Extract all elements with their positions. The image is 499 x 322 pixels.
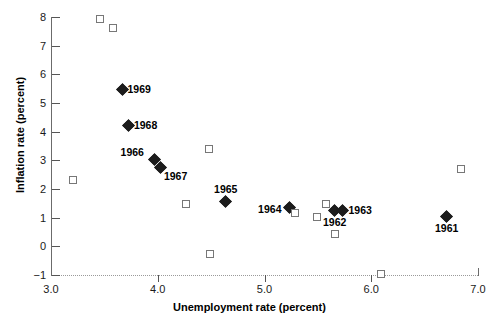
diamond-marker-icon xyxy=(440,210,453,223)
data-point-label: 1969 xyxy=(128,84,151,95)
square-marker-icon xyxy=(69,176,77,184)
x-tick-label: 4.0 xyxy=(133,284,183,295)
y-tick-mark xyxy=(52,246,60,247)
x-axis-title: Unemployment rate (percent) xyxy=(0,301,499,313)
data-point-label: 1964 xyxy=(258,204,281,215)
y-tick-mark xyxy=(52,218,60,219)
square-marker-icon xyxy=(182,200,190,208)
square-marker-icon xyxy=(291,209,299,217)
y-tick-label: 8 xyxy=(0,12,46,23)
diamond-marker-icon xyxy=(116,83,129,96)
x-tick-mark xyxy=(265,275,266,282)
data-point-label: 1967 xyxy=(164,171,187,182)
square-marker-icon xyxy=(109,24,117,32)
data-point-label: 1962 xyxy=(323,217,346,228)
x-tick-label: 5.0 xyxy=(240,284,290,295)
diamond-marker-icon xyxy=(337,204,350,217)
x-tick-label: 7.0 xyxy=(453,284,499,295)
y-tick-label: −1 xyxy=(0,270,46,281)
data-point-label: 1961 xyxy=(435,223,458,234)
data-point-label: 1968 xyxy=(134,120,157,131)
x-tick-label: 6.0 xyxy=(346,284,396,295)
square-marker-icon xyxy=(206,250,214,258)
y-tick-mark xyxy=(52,17,60,18)
y-axis-line xyxy=(51,17,52,275)
y-tick-mark xyxy=(52,132,60,133)
data-point-label: 1965 xyxy=(214,184,237,195)
diamond-marker-icon xyxy=(122,119,135,132)
square-marker-icon xyxy=(322,200,330,208)
data-point-label: 1963 xyxy=(348,205,371,216)
scatter-chart: 876543210−1 3.04.05.06.07.0 Inflation ra… xyxy=(0,0,499,322)
square-marker-icon xyxy=(96,15,104,23)
square-marker-icon xyxy=(377,270,385,278)
square-marker-icon xyxy=(205,145,213,153)
square-marker-icon xyxy=(331,230,339,238)
diamond-marker-icon xyxy=(219,195,232,208)
y-tick-mark xyxy=(52,275,60,276)
x-tick-label: 3.0 xyxy=(26,284,76,295)
x-tick-mark xyxy=(371,275,372,282)
square-marker-icon xyxy=(457,165,465,173)
x-axis-right-cap xyxy=(478,268,479,276)
y-tick-mark xyxy=(52,103,60,104)
y-axis-title: Inflation rate (percent) xyxy=(14,35,26,235)
y-tick-mark xyxy=(52,189,60,190)
y-tick-mark xyxy=(52,74,60,75)
y-tick-mark xyxy=(52,160,60,161)
square-marker-icon xyxy=(313,213,321,221)
x-tick-mark xyxy=(158,275,159,282)
y-tick-label: 0 xyxy=(0,241,46,252)
y-tick-mark xyxy=(52,46,60,47)
data-point-label: 1966 xyxy=(121,147,144,158)
